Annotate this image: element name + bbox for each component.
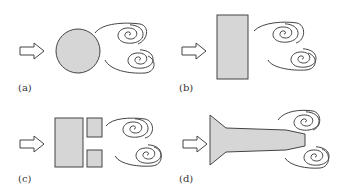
panel-c <box>20 118 161 167</box>
panel-c-label: (c) <box>18 173 31 184</box>
panel-a-label: (a) <box>18 82 32 93</box>
panel-b <box>182 15 316 79</box>
panel-a <box>20 23 154 73</box>
flow-arrow-icon <box>183 136 207 152</box>
flow-arrow-icon <box>182 43 206 59</box>
flow-arrow-icon <box>20 136 44 152</box>
lower-vortex-icon <box>291 49 316 67</box>
main-block <box>55 118 83 167</box>
lower-vortex-icon <box>136 145 161 163</box>
rectangular-plate <box>217 15 248 79</box>
upper-vortex-icon <box>118 25 143 43</box>
upper-wake-line <box>254 22 304 43</box>
lower-vortex-icon <box>128 50 153 68</box>
upper-vortex-icon <box>294 112 319 130</box>
lower-vortex-icon <box>304 147 329 165</box>
tapered-body <box>210 115 305 165</box>
upper-vortex-icon <box>273 24 298 42</box>
lower-trailing-block <box>87 150 102 167</box>
circular-cylinder <box>56 29 100 73</box>
panel-d-label: (d) <box>179 173 193 184</box>
panel-b-label: (b) <box>179 82 193 93</box>
panel-d <box>183 110 329 168</box>
upper-wake-line <box>106 118 153 138</box>
upper-vortex-icon <box>123 119 148 137</box>
diagram-canvas <box>0 0 353 192</box>
upper-trailing-block <box>87 118 102 137</box>
flow-arrow-icon <box>20 43 44 59</box>
